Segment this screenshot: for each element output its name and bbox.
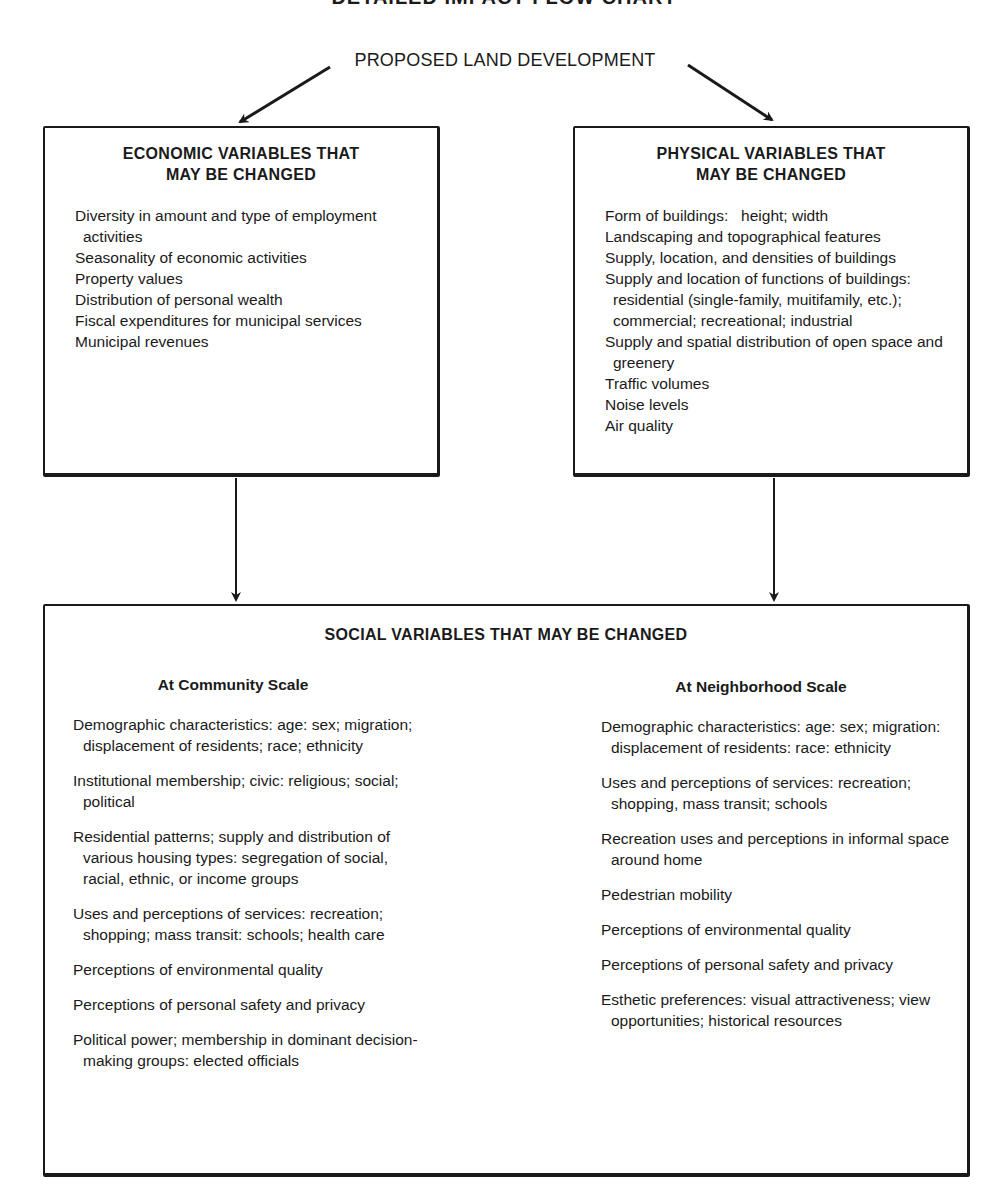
economic-item: Seasonality of economic activities: [75, 247, 430, 268]
neighborhood-scale-column: At Neighborhood Scale Demographic charac…: [601, 676, 961, 1045]
neighborhood-scale-heading: At Neighborhood Scale: [601, 678, 921, 696]
community-item: Political power; membership in dominant …: [73, 1029, 433, 1071]
arrow-root-to-economic: [240, 67, 330, 122]
social-heading: SOCIAL VARIABLES THAT MAY BE CHANGED: [45, 626, 967, 644]
neighborhood-item: Perceptions of environmental quality: [601, 919, 961, 940]
community-scale-heading: At Community Scale: [73, 676, 393, 694]
physical-list: Form of buildings: height; width Landsca…: [605, 205, 965, 436]
community-item: Perceptions of personal safety and priva…: [73, 994, 433, 1015]
community-scale-column: At Community Scale Demographic character…: [73, 676, 433, 1085]
physical-heading: PHYSICAL VARIABLES THAT MAY BE CHANGED: [575, 143, 967, 185]
chart-title: DETAILED IMPACT FLOW CHART: [0, 0, 1008, 9]
economic-item: Distribution of personal wealth: [75, 289, 430, 310]
physical-item: Landscaping and topographical features: [605, 226, 965, 247]
economic-heading: ECONOMIC VARIABLES THAT MAY BE CHANGED: [45, 143, 437, 185]
physical-item: Air quality: [605, 415, 965, 436]
community-item: Residential patterns; supply and distrib…: [73, 826, 433, 889]
economic-item: Fiscal expenditures for municipal servic…: [75, 310, 430, 331]
community-list: Demographic characteristics: age: sex; m…: [73, 714, 433, 1071]
physical-item: Supply and spatial distribution of open …: [605, 331, 965, 373]
community-item: Institutional membership; civic: religio…: [73, 770, 433, 812]
social-variables-box: SOCIAL VARIABLES THAT MAY BE CHANGED At …: [43, 604, 970, 1177]
economic-item: Property values: [75, 268, 430, 289]
neighborhood-item: Perceptions of personal safety and priva…: [601, 954, 961, 975]
neighborhood-item: Pedestrian mobility: [601, 884, 961, 905]
physical-item: Form of buildings: height; width: [605, 205, 965, 226]
community-item: Perceptions of environmental quality: [73, 959, 433, 980]
economic-variables-box: ECONOMIC VARIABLES THAT MAY BE CHANGED D…: [43, 126, 440, 477]
neighborhood-item: Demographic characteristics: age: sex; m…: [601, 716, 961, 758]
neighborhood-list: Demographic characteristics: age: sex; m…: [601, 716, 961, 1031]
community-item: Uses and perceptions of services: recrea…: [73, 903, 433, 945]
neighborhood-item: Esthetic preferences: visual attractiven…: [601, 989, 961, 1031]
neighborhood-item: Uses and perceptions of services: recrea…: [601, 772, 961, 814]
arrow-root-to-physical: [688, 65, 772, 120]
physical-variables-box: PHYSICAL VARIABLES THAT MAY BE CHANGED F…: [573, 126, 970, 477]
neighborhood-item: Recreation uses and perceptions in infor…: [601, 828, 961, 870]
root-node-proposed-land-development: PROPOSED LAND DEVELOPMENT: [330, 50, 680, 71]
physical-item: Noise levels: [605, 394, 965, 415]
economic-item: Municipal revenues: [75, 331, 430, 352]
economic-item: Diversity in amount and type of employme…: [75, 205, 430, 247]
physical-item: Supply and location of functions of buil…: [605, 268, 965, 331]
economic-list: Diversity in amount and type of employme…: [75, 205, 430, 352]
physical-item: Supply, location, and densities of build…: [605, 247, 965, 268]
community-item: Demographic characteristics: age: sex; m…: [73, 714, 433, 756]
physical-item: Traffic volumes: [605, 373, 965, 394]
